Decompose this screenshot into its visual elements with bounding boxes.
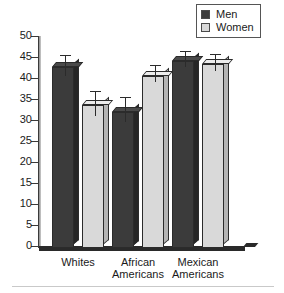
error-bar-cap-top [180,51,191,52]
bar-women-0 [82,105,104,248]
x-label-2: Mexican Americans [158,256,238,280]
y-tick-mark [31,204,38,205]
y-tick-label: 45 [20,51,32,62]
y-tick-label: 30 [20,114,32,125]
legend-item-men: Men [201,8,254,21]
bar-men-2 [172,61,194,248]
bar-women-1 [142,76,164,248]
y-tick-label: 0 [26,240,32,251]
y-tick-label: 10 [20,198,32,209]
y-tick-mark [31,57,38,58]
bar-women-2 [202,64,224,248]
plot-area [40,36,252,248]
y-tick-label: 5 [26,219,32,230]
bar-face [52,67,74,248]
y-tick-mark [31,162,38,163]
y-tick-mark [31,78,38,79]
bar-side [134,103,139,244]
error-bar-stem [65,55,66,76]
error-bar-cap-top [210,54,221,55]
bar-top [142,71,173,76]
bar-top [82,100,113,105]
error-bar-cap-top [150,65,161,66]
y-tick-label: 35 [20,93,32,104]
bar-side [164,68,169,244]
bar-side [194,53,199,244]
error-bar-stem [155,65,156,82]
y-tick-mark [31,183,38,184]
error-bar-stem [215,54,216,71]
bar-face [172,61,194,248]
bar-top [52,62,83,67]
bar-men-1 [112,112,134,249]
error-bar-stem [95,91,96,116]
y-tick-label: 50 [20,30,32,41]
error-bar-stem [185,51,186,68]
legend-item-women: Women [201,21,254,34]
y-tick-mark [31,36,38,37]
legend-label-men: Men [216,9,237,20]
error-bar-cap-top [120,97,131,98]
chart-legend: Men Women [196,4,261,38]
footer-divider [12,286,274,287]
y-tick-mark [31,120,38,121]
bar-face [202,64,224,248]
bar-top [202,59,233,64]
y-tick-label: 20 [20,156,32,167]
error-bar-cap-top [90,91,101,92]
bar-side [104,97,109,244]
y-tick-mark [31,99,38,100]
bar-face [142,76,164,248]
bar-face [82,105,104,248]
bar-top [112,107,143,112]
error-bar-cap-top [60,55,71,56]
bar-top [172,56,203,61]
y-tick-label: 25 [20,135,32,146]
y-tick-mark [31,141,38,142]
legend-swatch-women [201,23,210,32]
bar-men-0 [52,67,74,248]
error-bar-stem [125,97,126,122]
y-tick-label: 15 [20,177,32,188]
bar-side [224,56,229,244]
bar-face [112,112,134,249]
legend-swatch-men [201,10,210,19]
bar-chart: Men Women 50454035302520151050 WhitesAfr… [0,0,284,293]
y-tick-mark [31,246,38,247]
y-tick-mark [31,225,38,226]
bar-side [74,59,79,244]
y-tick-label: 40 [20,72,32,83]
legend-label-women: Women [216,22,254,33]
